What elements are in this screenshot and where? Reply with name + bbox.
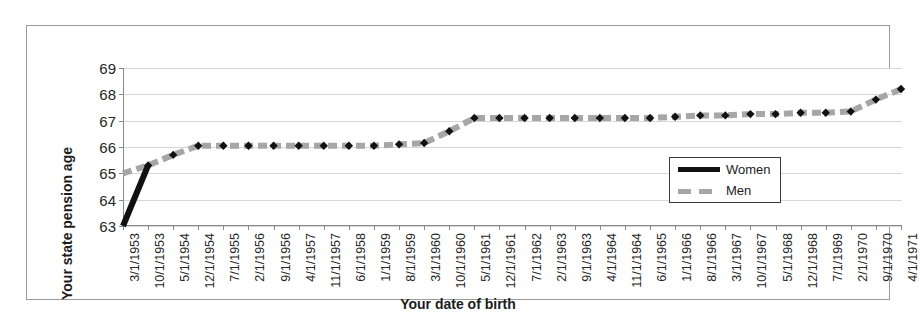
x-tick-mark — [223, 226, 224, 230]
x-tick-label: 5/1/1968 — [781, 233, 795, 282]
x-tick-mark — [198, 226, 199, 230]
x-tick-mark — [700, 226, 701, 230]
x-tick-label: 10/1/1960 — [454, 233, 468, 289]
x-tick-mark — [248, 226, 249, 230]
x-tick-label: 6/1/1965 — [655, 233, 669, 282]
x-tick-label: 6/1/1958 — [354, 233, 368, 282]
x-tick-label: 8/1/1959 — [404, 233, 418, 282]
y-tick-label: 63 — [99, 218, 116, 235]
x-axis-title: Your date of birth — [27, 296, 889, 312]
x-tick-label: 4/1/1971 — [906, 233, 920, 282]
chart-legend: Women Men — [669, 157, 781, 203]
y-tick-label: 69 — [99, 60, 116, 77]
x-tick-label: 2/1/1956 — [253, 233, 267, 282]
plot-area: 63646566676869 3/1/195310/1/19535/1/1954… — [123, 68, 902, 226]
x-tick-mark — [600, 226, 601, 230]
x-tick-mark — [575, 226, 576, 230]
x-tick-label: 9/1/1963 — [580, 233, 594, 282]
x-tick-label: 8/1/1966 — [705, 233, 719, 282]
x-tick-mark — [499, 226, 500, 230]
x-tick-label: 11/1/1957 — [329, 233, 343, 288]
x-tick-label: 12/1/1954 — [203, 233, 217, 289]
x-tick-label: 1/1/1959 — [379, 233, 393, 282]
x-tick-mark — [299, 226, 300, 230]
series-line-men — [123, 89, 901, 173]
y-tick-label: 64 — [99, 191, 116, 208]
x-tick-mark — [349, 226, 350, 230]
chart-frame: Your state pension age Your date of birt… — [26, 25, 890, 300]
x-tick-label: 11/1/1964 — [630, 233, 644, 288]
x-tick-label: 2/1/1970 — [856, 233, 870, 282]
x-tick-label: 7/1/1962 — [530, 233, 544, 282]
x-tick-label: 1/1/1966 — [680, 233, 694, 282]
x-tick-mark — [449, 226, 450, 230]
x-tick-label: 3/1/1960 — [429, 233, 443, 282]
x-tick-label: 12/1/1968 — [806, 233, 820, 289]
x-tick-mark — [625, 226, 626, 230]
x-tick-label: 7/1/1955 — [228, 233, 242, 282]
x-tick-label: 4/1/1957 — [304, 233, 318, 282]
y-tick-label: 68 — [99, 86, 116, 103]
gridline — [123, 226, 902, 227]
x-tick-label: 10/1/1967 — [755, 233, 769, 289]
legend-label-men: Men — [726, 183, 751, 198]
x-tick-label: 5/1/1961 — [479, 233, 493, 282]
x-tick-mark — [776, 226, 777, 230]
x-tick-mark — [550, 226, 551, 230]
x-tick-mark — [801, 226, 802, 230]
x-tick-mark — [148, 226, 149, 230]
x-tick-mark — [324, 226, 325, 230]
x-tick-mark — [173, 226, 174, 230]
x-tick-mark — [725, 226, 726, 230]
x-tick-mark — [374, 226, 375, 230]
legend-swatch-men-icon — [676, 183, 722, 197]
x-tick-label: 4/1/1964 — [605, 233, 619, 282]
x-tick-mark — [675, 226, 676, 230]
x-tick-label: 10/1/1953 — [153, 233, 167, 289]
x-tick-label: 12/1/1961 — [504, 233, 518, 289]
x-tick-mark — [750, 226, 751, 230]
x-tick-mark — [901, 226, 902, 230]
x-tick-label: 3/1/1953 — [128, 233, 142, 282]
legend-label-women: Women — [726, 162, 771, 177]
x-tick-mark — [650, 226, 651, 230]
y-tick-label: 66 — [99, 139, 116, 156]
x-tick-mark — [876, 226, 877, 230]
x-tick-label: 9/1/1956 — [279, 233, 293, 282]
x-tick-mark — [399, 226, 400, 230]
y-tick-label: 65 — [99, 165, 116, 182]
x-tick-mark — [474, 226, 475, 230]
series-layer — [123, 68, 902, 226]
x-tick-mark — [274, 226, 275, 230]
x-tick-mark — [525, 226, 526, 230]
legend-item-women: Women — [676, 160, 771, 178]
x-tick-label: 2/1/1963 — [555, 233, 569, 282]
y-tick-label: 67 — [99, 112, 116, 129]
x-tick-mark — [851, 226, 852, 230]
x-tick-mark — [826, 226, 827, 230]
x-tick-mark — [123, 226, 124, 230]
legend-swatch-women-icon — [676, 162, 722, 176]
y-axis-title: Your state pension age — [59, 147, 75, 300]
x-tick-label: 7/1/1969 — [831, 233, 845, 282]
legend-item-men: Men — [676, 181, 751, 199]
x-tick-label: 5/1/1954 — [178, 233, 192, 282]
x-tick-label: 3/1/1967 — [730, 233, 744, 282]
x-tick-mark — [424, 226, 425, 230]
x-tick-label: 9/1/1970 — [881, 233, 895, 282]
